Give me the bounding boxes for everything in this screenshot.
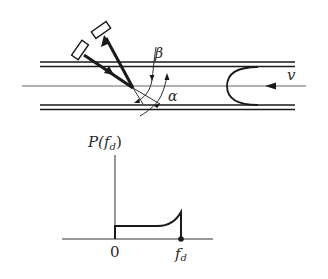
fd-label: fd	[174, 245, 187, 263]
y-axis-label-close: )	[116, 133, 122, 151]
y-axis-label: P(fd)	[87, 133, 122, 152]
alpha-label: α	[168, 88, 178, 104]
spectrum-plot: P(fd) 0 fd	[62, 133, 213, 263]
receiving-probe	[91, 22, 110, 39]
velocity-label: v	[287, 66, 296, 84]
vessel-diagram: v	[22, 22, 306, 116]
y-axis-label-main: P(	[87, 133, 105, 151]
flow-direction-arrow	[265, 83, 276, 90]
fd-label-sub: d	[181, 252, 187, 263]
spectrum-curve	[115, 212, 181, 239]
fd-marker-dot	[178, 236, 184, 242]
beta-label: β	[154, 45, 163, 61]
doppler-flow-figure: v	[0, 0, 328, 279]
vessel-wall-top	[40, 62, 295, 67]
origin-label: 0	[110, 243, 120, 261]
